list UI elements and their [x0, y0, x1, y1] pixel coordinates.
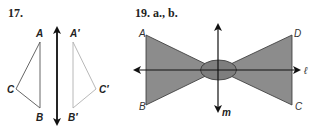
label-c-prime: C′ — [99, 84, 109, 95]
label-b: B — [36, 112, 43, 123]
figure-19: 19. a., b. A B C D ℓ m — [135, 6, 308, 118]
label-b-prime: B′ — [68, 112, 78, 123]
figure-17-number: 17. — [8, 6, 23, 20]
label-a: A — [35, 28, 43, 39]
triangle-abc — [16, 42, 40, 108]
label-line-m: m — [222, 107, 231, 118]
triangle-abc-prime — [73, 42, 96, 108]
label-c: C — [7, 84, 15, 95]
label-a-prime: A′ — [69, 28, 80, 39]
figure-17: 17. A B C A′ B′ C′ — [7, 6, 109, 124]
label-line-l: ℓ — [303, 65, 308, 76]
label-c: C — [295, 101, 303, 112]
label-a: A — [138, 28, 146, 39]
diagram-canvas: 17. A B C A′ B′ C′ 19. a., b. A B C D ℓ … — [0, 0, 315, 132]
label-b: B — [139, 101, 146, 112]
label-d: D — [294, 28, 301, 39]
figure-19-number: 19. a., b. — [135, 6, 178, 20]
